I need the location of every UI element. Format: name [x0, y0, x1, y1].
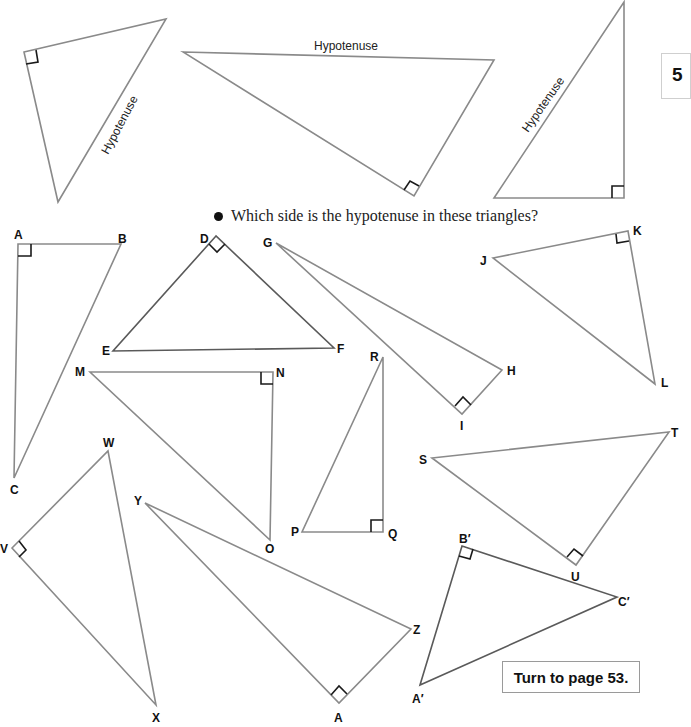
vertex-label: O [265, 542, 274, 556]
turn-to-page-text: Turn to page 53. [514, 669, 629, 686]
triangle-vwx: V W X [0, 436, 160, 725]
vertex-label: Z [413, 623, 420, 637]
vertex-label: S [419, 453, 427, 467]
question-text: Which side is the hypotenuse in these tr… [231, 207, 538, 225]
vertex-label: V [0, 542, 8, 556]
page-number: 5 [672, 64, 683, 86]
hypotenuse-label: Hypotenuse [314, 39, 378, 53]
vertex-label: A [334, 711, 343, 725]
vertex-label: N [276, 366, 285, 380]
vertex-label: L [661, 376, 668, 390]
triangle-yza: Y Z A [134, 494, 420, 725]
vertex-label: G [263, 236, 272, 250]
vertex-label: B [118, 232, 127, 246]
vertex-label: B′ [459, 532, 471, 546]
triangle-pqr: P Q R [291, 350, 397, 541]
vertex-label: A′ [412, 692, 424, 706]
example-triangle-1: Hypotenuse [24, 19, 166, 202]
vertex-label: K [633, 224, 642, 238]
example-triangle-2: Hypotenuse [183, 39, 494, 196]
question-prompt: Which side is the hypotenuse in these tr… [214, 207, 538, 225]
vertex-label: W [103, 436, 115, 450]
vertex-label: P [291, 525, 299, 539]
vertex-label: J [480, 254, 487, 268]
triangle-ghi: G H I [263, 236, 516, 433]
vertex-label: F [337, 342, 344, 356]
hypotenuse-label: Hypotenuse [519, 74, 567, 135]
hypotenuse-label: Hypotenuse [98, 93, 141, 156]
vertex-label: X [152, 711, 160, 725]
triangle-def: D E F [102, 232, 344, 358]
vertex-label: A [14, 228, 23, 242]
vertex-label: E [102, 344, 110, 358]
vertex-label: I [460, 419, 463, 433]
vertex-label: D [200, 232, 209, 246]
page-number-tab: 5 [661, 53, 691, 99]
vertex-label: C [10, 483, 19, 497]
vertex-label: C′ [618, 595, 630, 609]
vertex-label: R [370, 350, 379, 364]
vertex-label: Y [134, 494, 142, 508]
turn-to-page-box: Turn to page 53. [502, 661, 640, 693]
vertex-label: M [75, 365, 85, 379]
vertex-label: T [671, 426, 679, 440]
bullet-icon [214, 212, 223, 221]
vertex-label: H [507, 364, 516, 378]
example-triangle-3: Hypotenuse [494, 2, 624, 198]
triangle-mno: M N O [75, 365, 285, 556]
vertex-label: Q [388, 527, 397, 541]
